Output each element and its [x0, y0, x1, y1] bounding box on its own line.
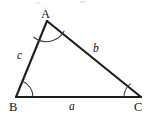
side-label-a: a [69, 101, 75, 113]
side-label-b: b [93, 43, 99, 55]
angle-arc-b [23, 81, 34, 97]
vertex-label-c: C [134, 101, 142, 114]
vertex-label-a: A [41, 8, 50, 21]
side-label-c: c [17, 50, 22, 62]
vertex-label-b: B [9, 101, 17, 114]
side-ac-line [47, 21, 141, 97]
triangle-figure: A B C a b c [0, 0, 149, 120]
